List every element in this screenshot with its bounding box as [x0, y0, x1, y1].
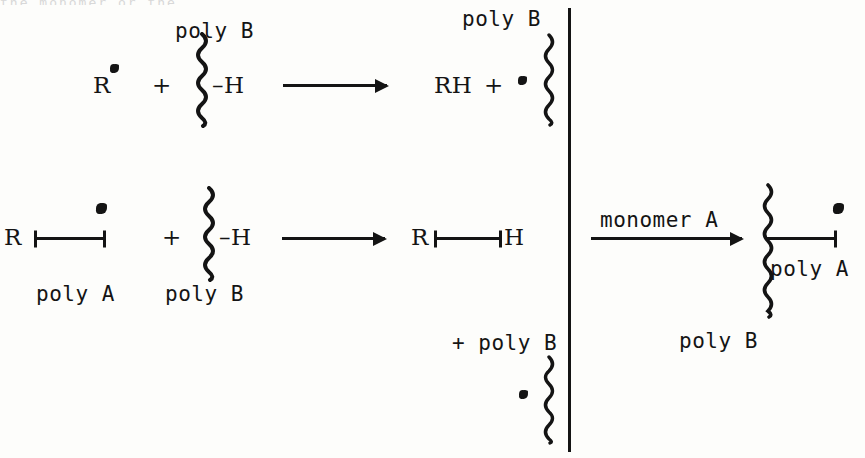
poly-a-segment-icon — [34, 237, 106, 240]
reaction3-arrow-label: monomer A — [600, 210, 718, 231]
reaction2-poly-a-label: poly A — [36, 284, 115, 305]
clipped-text-above: the monomer or the — [0, 0, 330, 5]
reaction1-plus-sign-1: + — [152, 74, 172, 97]
reaction1-product-chain-label: poly B — [462, 9, 541, 30]
poly-b-chain-icon — [538, 33, 560, 127]
reaction2-chain-substituent: –H — [219, 226, 252, 249]
poly-a-graft-segment-icon — [766, 237, 837, 240]
reaction3-backbone-label: poly B — [679, 331, 758, 352]
radical-dot-icon — [518, 76, 527, 85]
reaction2-product-prefix: R — [411, 226, 429, 249]
poly-b-chain-icon — [191, 32, 213, 128]
reaction-scheme-figure: the monomer or the poly B R + –H RH + po… — [0, 0, 865, 458]
radical-dot-icon — [96, 203, 107, 214]
vertical-divider — [568, 8, 571, 452]
poly-b-chain-icon — [757, 183, 779, 319]
reaction1-reactant-radical-symbol: R — [93, 74, 111, 97]
radical-dot-icon — [110, 64, 119, 73]
reaction1-product-label: RH — [434, 74, 472, 97]
poly-a-segment-icon — [434, 237, 502, 240]
poly-b-chain-icon — [538, 355, 560, 445]
reaction1-reactant-chain-label: poly B — [175, 21, 254, 42]
poly-b-chain-icon — [198, 186, 220, 282]
reaction1-chain-substituent: –H — [212, 74, 245, 97]
reaction2-plus-sign-1: + — [162, 226, 182, 249]
reaction2-plus-poly-b-label: + poly B — [452, 333, 557, 354]
reaction2-product-suffix: H — [504, 226, 525, 249]
reaction3-arrow — [591, 237, 742, 240]
reaction3-branch-label: poly A — [770, 259, 849, 280]
reaction1-plus-sign-2: + — [484, 74, 504, 97]
radical-dot-icon — [519, 390, 528, 399]
reaction1-arrow — [283, 84, 387, 87]
reaction2-poly-b-label: poly B — [165, 284, 244, 305]
radical-dot-icon — [833, 203, 844, 214]
reaction2-arrow — [282, 237, 385, 240]
reaction2-reactant-prefix: R — [4, 226, 22, 249]
